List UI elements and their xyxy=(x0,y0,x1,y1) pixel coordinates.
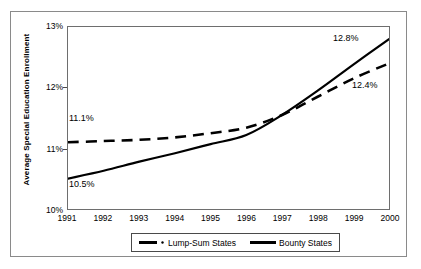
series-line-lump-sum xyxy=(68,63,389,142)
x-tick-label: 1994 xyxy=(165,213,184,223)
x-tick-label: 1996 xyxy=(237,213,256,223)
annotation-end-bounty: 12.8% xyxy=(333,33,359,43)
chart-figure: Average Special Education Enrollment 10%… xyxy=(0,0,421,269)
x-axis-tick-labels: 1991199219931994199519961997199819992000 xyxy=(67,213,390,227)
chart-legend: Lump-Sum States Bounty States xyxy=(131,233,340,252)
legend-item-bounty: Bounty States xyxy=(250,238,332,248)
y-tick-mark xyxy=(63,149,67,150)
x-tick-label: 1992 xyxy=(93,213,112,223)
x-tick-label: 1997 xyxy=(273,213,292,223)
annotation-end-lump-sum: 12.4% xyxy=(352,80,378,90)
legend-label-lump-sum: Lump-Sum States xyxy=(168,238,236,248)
annotation-start-bounty: 10.5% xyxy=(69,179,95,189)
annotation-start-lump-sum: 11.1% xyxy=(69,113,94,123)
legend-marker-dashed-icon xyxy=(139,238,165,247)
y-tick-label: 12% xyxy=(46,82,63,92)
y-axis-title: Average Special Education Enrollment xyxy=(22,10,31,210)
x-tick-label: 1993 xyxy=(129,213,148,223)
x-tick-label: 2000 xyxy=(381,213,400,223)
plot-area xyxy=(67,26,390,210)
x-tick-label: 1998 xyxy=(309,213,328,223)
y-tick-label: 11% xyxy=(47,144,63,154)
y-axis-tick-labels: 10%11%12%13% xyxy=(36,26,63,210)
legend-label-bounty: Bounty States xyxy=(279,238,332,248)
x-tick-label: 1995 xyxy=(201,213,220,223)
series-lines xyxy=(68,27,389,209)
y-tick-mark xyxy=(63,87,67,88)
x-tick-label: 1999 xyxy=(345,213,364,223)
series-line-bounty xyxy=(68,39,389,179)
x-tick-label: 1991 xyxy=(58,213,77,223)
y-tick-label: 13% xyxy=(46,21,63,31)
legend-item-lump-sum: Lump-Sum States xyxy=(139,238,236,248)
legend-marker-solid-icon xyxy=(250,238,276,247)
